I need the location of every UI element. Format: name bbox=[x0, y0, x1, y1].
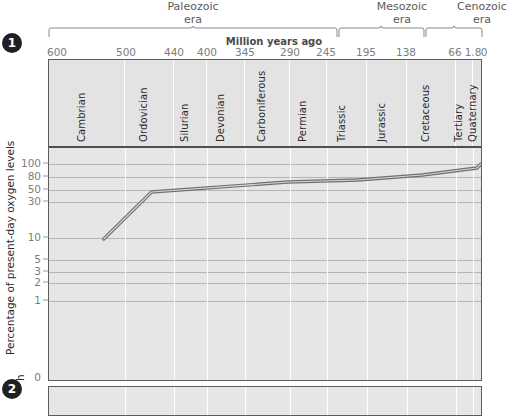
x-tick-label: 245 bbox=[316, 46, 336, 58]
period-name: Silurian bbox=[179, 104, 190, 142]
period-cell: Jurassic bbox=[367, 60, 407, 146]
x-tick-label-row: 600 500 440 400 345 290 245 195 138 66 1… bbox=[0, 46, 486, 59]
y-tick-label: 2 bbox=[34, 276, 41, 288]
gridline-vertical bbox=[367, 387, 368, 415]
gridline-vertical bbox=[327, 387, 328, 415]
period-cell: Triassic bbox=[327, 60, 367, 146]
period-name: Cretaceous bbox=[420, 85, 431, 142]
gridline-vertical bbox=[456, 387, 457, 415]
era-name: Paleozoic bbox=[48, 0, 338, 13]
x-tick-label: 66 bbox=[448, 46, 461, 58]
y-tick-label: 50 bbox=[28, 183, 41, 195]
era-label-paleozoic: Paleozoic era bbox=[48, 0, 338, 26]
oxygen-curve-highlight bbox=[104, 164, 481, 239]
period-cell: Devonian bbox=[207, 60, 245, 146]
y-axis-title: Percentage of present-day oxygen levels bbox=[8, 155, 24, 355]
gridline-vertical bbox=[407, 387, 408, 415]
y-tick-label: 1 bbox=[34, 294, 41, 306]
x-tick-label: 500 bbox=[116, 46, 136, 58]
second-chart-panel bbox=[48, 386, 482, 416]
period-name: Ordovician bbox=[138, 87, 149, 142]
x-tick-label: 138 bbox=[396, 46, 416, 58]
period-name: Triassic bbox=[336, 105, 347, 142]
period-name: Cambrian bbox=[76, 93, 87, 142]
era-label-row: Paleozoic era Mesozoic era Cenozoic era bbox=[48, 0, 482, 26]
y-tick-label: 5 bbox=[34, 253, 41, 265]
period-cell: Carboniferous bbox=[245, 60, 290, 146]
x-tick-label: 0 bbox=[481, 46, 488, 58]
period-name: Tertiary bbox=[453, 104, 464, 142]
period-name: Carboniferous bbox=[256, 71, 267, 142]
y-axis-title-text: Percentage of present-day oxygen levels bbox=[4, 141, 16, 355]
period-cell: Cretaceous bbox=[407, 60, 456, 146]
period-cell: Permian bbox=[290, 60, 327, 146]
x-tick-label: 290 bbox=[280, 46, 300, 58]
y-tick-label: 10 bbox=[28, 231, 41, 243]
y-tick-label: 30 bbox=[28, 195, 41, 207]
era-suffix: era bbox=[430, 13, 511, 26]
gridline-vertical bbox=[290, 387, 291, 415]
x-tick-label: 600 bbox=[47, 46, 67, 58]
y-tick-label: 80 bbox=[28, 170, 41, 182]
gridline-vertical bbox=[207, 387, 208, 415]
panel-number-badge-1: 1 bbox=[2, 33, 22, 53]
geologic-period-band: Cambrian Ordovician Silurian Devonian Ca… bbox=[49, 60, 481, 148]
gridline-vertical bbox=[125, 387, 126, 415]
period-cell: Quaternary bbox=[473, 60, 483, 146]
oxygen-chart-panel: Cambrian Ordovician Silurian Devonian Ca… bbox=[48, 59, 482, 381]
period-cell: Silurian bbox=[174, 60, 207, 146]
x-tick-label: 1.8 bbox=[465, 46, 482, 58]
panel-number-badge-2: 2 bbox=[2, 379, 22, 399]
period-cell: Ordovician bbox=[125, 60, 174, 146]
period-name: Permian bbox=[297, 101, 308, 142]
era-name: Cenozoic bbox=[430, 0, 511, 13]
period-name: Devonian bbox=[215, 94, 226, 142]
period-name: Jurassic bbox=[376, 103, 387, 142]
x-tick-label: 195 bbox=[356, 46, 376, 58]
gridline-vertical bbox=[473, 387, 474, 415]
period-name: Quaternary bbox=[467, 84, 478, 142]
oxygen-curve bbox=[49, 148, 481, 380]
era-label-cenozoic: Cenozoic era bbox=[430, 0, 511, 26]
x-tick-label: 400 bbox=[197, 46, 217, 58]
era-suffix: era bbox=[48, 13, 338, 26]
oxygen-plot-area bbox=[49, 148, 481, 380]
x-tick-label: 440 bbox=[164, 46, 184, 58]
x-tick-label: 345 bbox=[235, 46, 255, 58]
gridline-vertical bbox=[245, 387, 246, 415]
period-cell: Cambrian bbox=[49, 60, 125, 146]
y-tick-label: 0 bbox=[34, 371, 41, 383]
gridline-vertical bbox=[174, 387, 175, 415]
